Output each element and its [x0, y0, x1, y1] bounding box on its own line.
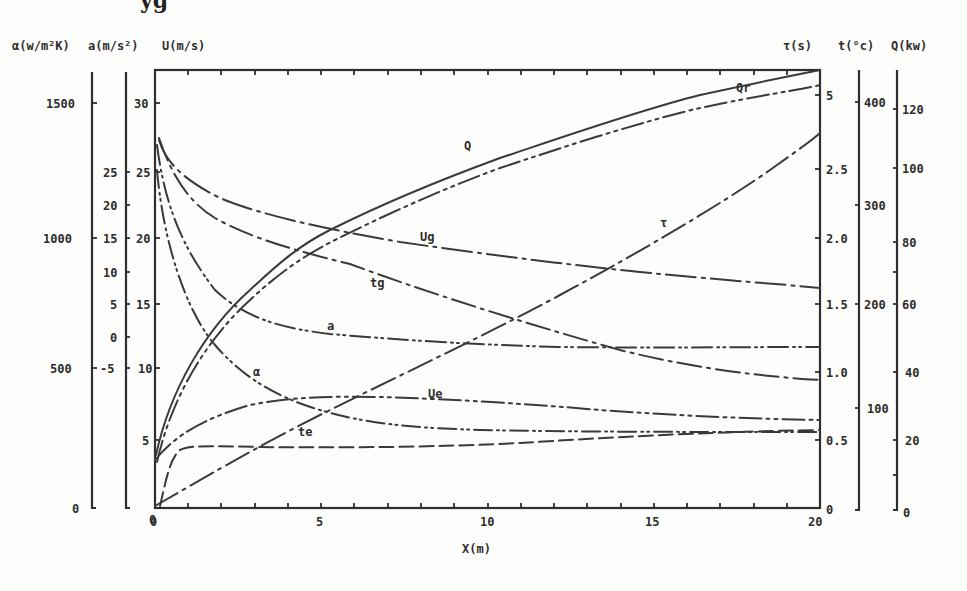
curve-qr: [157, 85, 820, 462]
x-tick: 10: [480, 515, 494, 529]
x-axis-title: X(m): [462, 542, 491, 556]
q-tick: 120: [902, 103, 924, 117]
u-tick: 10: [138, 362, 152, 376]
label-ug: Ug: [420, 230, 434, 244]
t-tick: 100: [867, 402, 889, 416]
q-tick: 40: [905, 366, 919, 380]
curve-a: [157, 145, 820, 347]
q-tick: 20: [905, 434, 919, 448]
curve-ue: [155, 397, 820, 460]
u-tick: 15: [136, 298, 150, 312]
a-tick: 5: [110, 298, 117, 312]
tau-tick: 2.0: [826, 232, 848, 246]
a-axis-title: a(m/s²): [88, 39, 139, 53]
tau-tick: 0: [826, 503, 833, 517]
label-alpha: α: [253, 365, 260, 379]
a-tick: 25: [103, 166, 117, 180]
plot-frame: [155, 70, 820, 508]
a-tick: 0: [110, 331, 117, 345]
t-axis-title: t(°c): [838, 39, 874, 53]
u-tick: 20: [136, 232, 150, 246]
x-tick: 15: [645, 515, 659, 529]
u-axis-title: U(m/s): [162, 39, 205, 53]
a-tick: 15: [103, 232, 117, 246]
q-tick: 0: [903, 506, 910, 520]
t-tick: 400: [864, 96, 886, 110]
a-tick: -5: [100, 362, 114, 376]
alpha-axis-title: α(w/m²K): [12, 39, 70, 53]
alpha-axis: 1500 1000 500 0: [43, 72, 97, 516]
label-q: Q: [464, 139, 471, 153]
u-tick: 5: [142, 434, 149, 448]
q-tick: 100: [902, 162, 924, 176]
tau-tick: 2.5: [826, 163, 848, 177]
alpha-tick: 500: [50, 362, 72, 376]
label-a: a: [327, 319, 334, 333]
curves: [155, 70, 820, 506]
curve-alpha: [157, 170, 820, 432]
tau-tick: 1.0: [826, 366, 848, 380]
curve-labels: Q Qr Ug tg a α τ Ue te: [253, 81, 750, 439]
label-tg: tg: [370, 276, 384, 290]
x-tick: 5: [316, 515, 323, 529]
alpha-tick: 1500: [46, 97, 75, 111]
t-tick: 300: [864, 199, 886, 213]
x-tick: 0: [150, 515, 157, 529]
a-tick: 20: [103, 199, 117, 213]
t-tick: 200: [864, 298, 886, 312]
label-ue: Ue: [428, 387, 442, 401]
label-tau: τ: [660, 216, 667, 230]
label-te: te: [298, 425, 312, 439]
x-tick: 20: [808, 515, 822, 529]
x-axis-ticks: [188, 70, 787, 508]
chart-canvas: yg α(w/m²K) a(m/s²) U(m/s) τ(s) t(°c) Q(…: [0, 0, 967, 591]
t-axis: 400 300 200 100: [855, 70, 889, 510]
q-tick: 60: [902, 298, 916, 312]
tau-tick: 5: [826, 89, 833, 103]
u-tick: 25: [136, 166, 150, 180]
q-axis-title: Q(kw): [891, 39, 927, 53]
q-axis: 120 100 80 60 40 20 0: [893, 70, 924, 520]
header-fragment: yg: [139, 0, 168, 13]
curve-q: [156, 70, 820, 455]
tau-tick: 0.5: [826, 434, 848, 448]
tau-axis-title: τ(s): [783, 39, 812, 53]
alpha-tick: 1000: [43, 232, 72, 246]
curve-tau: [155, 133, 820, 506]
label-qr: Qr: [736, 81, 750, 95]
curve-te: [160, 430, 820, 506]
a-tick: 10: [103, 266, 117, 280]
alpha-tick: 0: [72, 502, 79, 516]
q-tick: 80: [902, 236, 916, 250]
a-axis: 25 20 15 10 5 0 -5: [100, 72, 130, 508]
u-tick: 30: [134, 97, 148, 111]
tau-tick: 1.5: [826, 298, 848, 312]
